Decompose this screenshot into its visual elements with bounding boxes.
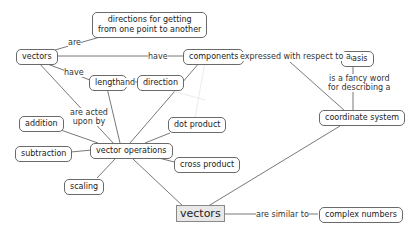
link-have-components: have xyxy=(148,52,168,61)
node-vectors-main[interactable]: vectors xyxy=(176,205,225,222)
node-vector-operations[interactable]: vector operations xyxy=(90,143,173,159)
node-complex-numbers[interactable]: complex numbers xyxy=(319,207,403,223)
node-coordinate-system[interactable]: coordinate system xyxy=(319,110,405,126)
node-vectors-top[interactable]: vectors xyxy=(16,49,58,65)
link-and: and xyxy=(120,78,135,87)
node-direction[interactable]: direction xyxy=(137,75,184,91)
link-are: are xyxy=(68,38,81,47)
node-subtraction[interactable]: subtraction xyxy=(15,146,72,162)
node-cross-product[interactable]: cross product xyxy=(174,157,240,173)
node-scaling[interactable]: scaling xyxy=(64,179,104,195)
link-expressed: expressed with respect to a xyxy=(240,52,351,61)
node-components[interactable]: components xyxy=(183,49,244,65)
link-fancy-word: is a fancy word for describing a xyxy=(328,74,391,92)
link-have-length: have xyxy=(64,68,84,77)
node-dot-product[interactable]: dot product xyxy=(168,117,226,133)
link-similar: are similar to xyxy=(256,210,309,219)
link-acted-upon: are acted upon by xyxy=(70,108,108,126)
node-addition[interactable]: addition xyxy=(19,116,64,132)
node-directions[interactable]: directions for getting from one point to… xyxy=(92,12,207,38)
